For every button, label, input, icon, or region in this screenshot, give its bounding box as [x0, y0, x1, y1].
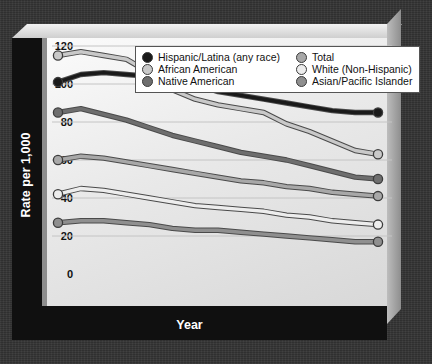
legend-swatch-icon	[142, 52, 153, 63]
legend-swatch-icon	[296, 76, 307, 87]
legend-item-white-non-hispanic: White (Non-Hispanic)	[296, 63, 412, 75]
legend-label: Hispanic/Latina (any race)	[158, 51, 280, 63]
legend-label: White (Non-Hispanic)	[312, 63, 412, 75]
y-axis-title: Rate per 1,000	[19, 75, 33, 275]
legend-item-african-american: African American	[142, 63, 296, 75]
legend-item-total: Total	[296, 51, 334, 63]
legend-swatch-icon	[296, 52, 307, 63]
legend-swatch-icon	[296, 64, 307, 75]
legend-label: African American	[158, 63, 237, 75]
y-axis-title-bar: Rate per 1,000	[12, 38, 42, 340]
legend-label: Asian/Pacific Islander	[312, 75, 412, 87]
legend-label: Native American	[158, 75, 234, 87]
block-top-face	[12, 24, 402, 38]
legend-label: Total	[312, 51, 334, 63]
legend-swatch-icon	[142, 64, 153, 75]
legend-item-hispanic-latina: Hispanic/Latina (any race)	[142, 51, 296, 63]
legend-item-asian-pacific-islander: Asian/Pacific Islander	[296, 75, 412, 87]
chart-legend: Hispanic/Latina (any race) Total African…	[135, 46, 420, 93]
legend-row: African American White (Non-Hispanic)	[142, 63, 413, 75]
legend-item-native-american: Native American	[142, 75, 296, 87]
legend-row: Hispanic/Latina (any race) Total	[142, 51, 413, 63]
x-axis-title: Year	[12, 318, 367, 332]
legend-row: Native American Asian/Pacific Islander	[142, 75, 413, 87]
legend-swatch-icon	[142, 76, 153, 87]
chart-3d-block: Rate per 1,000 020406080100120 199019911…	[12, 24, 420, 340]
x-axis-title-bar: Year	[12, 306, 387, 340]
